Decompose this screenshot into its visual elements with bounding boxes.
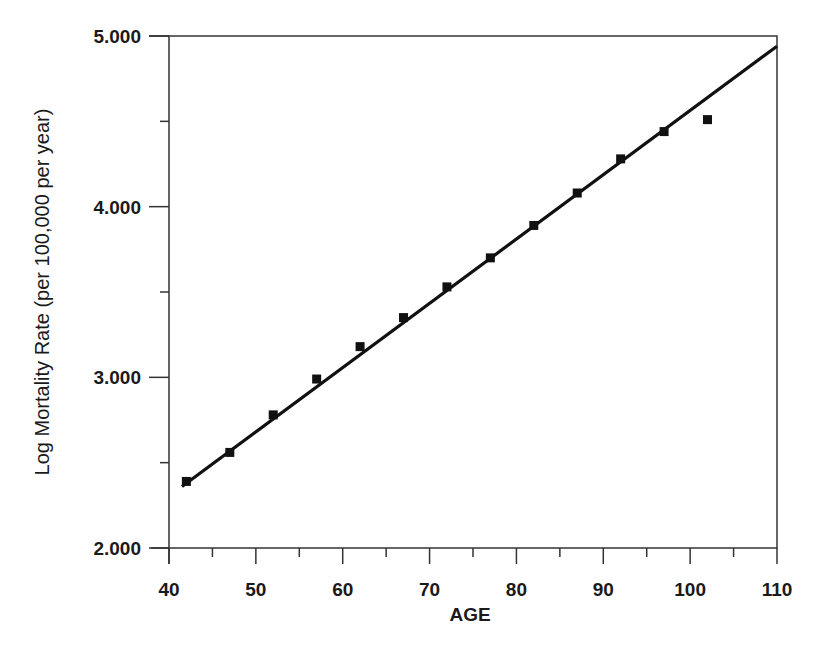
- x-tick-label: 60: [332, 579, 353, 600]
- data-point-square: [616, 154, 625, 163]
- y-tick-label: 5.000: [93, 26, 141, 47]
- data-point-square: [182, 477, 191, 486]
- y-tick-label: 2.000: [93, 538, 141, 559]
- data-points: [182, 115, 712, 486]
- x-tick-label: 70: [419, 579, 440, 600]
- data-point-square: [356, 342, 365, 351]
- data-point-square: [442, 282, 451, 291]
- fitted-regression-line: [182, 46, 777, 486]
- x-tick-label: 40: [158, 579, 179, 600]
- y-axis-title: Log Mortality Rate (per 100,000 per year…: [31, 109, 53, 476]
- data-point-square: [529, 221, 538, 230]
- regression-line: [182, 46, 777, 486]
- data-point-square: [486, 253, 495, 262]
- x-tick-label: 110: [762, 579, 793, 600]
- x-axis-title: AGE: [449, 604, 490, 625]
- data-point-square: [225, 448, 234, 457]
- data-point-square: [573, 189, 582, 198]
- data-point-square: [660, 127, 669, 136]
- y-tick-label: 4.000: [93, 197, 141, 218]
- x-tick-label: 50: [245, 579, 266, 600]
- data-point-square: [703, 115, 712, 124]
- x-axis-ticks: 405060708090100110: [158, 548, 792, 600]
- x-tick-label: 90: [593, 579, 614, 600]
- data-point-square: [399, 313, 408, 322]
- y-axis-ticks: 2.0003.0004.0005.000: [93, 26, 169, 559]
- y-tick-label: 3.000: [93, 367, 141, 388]
- data-point-square: [312, 375, 321, 384]
- x-tick-label: 100: [674, 579, 706, 600]
- x-tick-label: 80: [506, 579, 527, 600]
- data-point-square: [269, 410, 278, 419]
- chart-canvas: 405060708090100110 2.0003.0004.0005.000 …: [0, 0, 818, 656]
